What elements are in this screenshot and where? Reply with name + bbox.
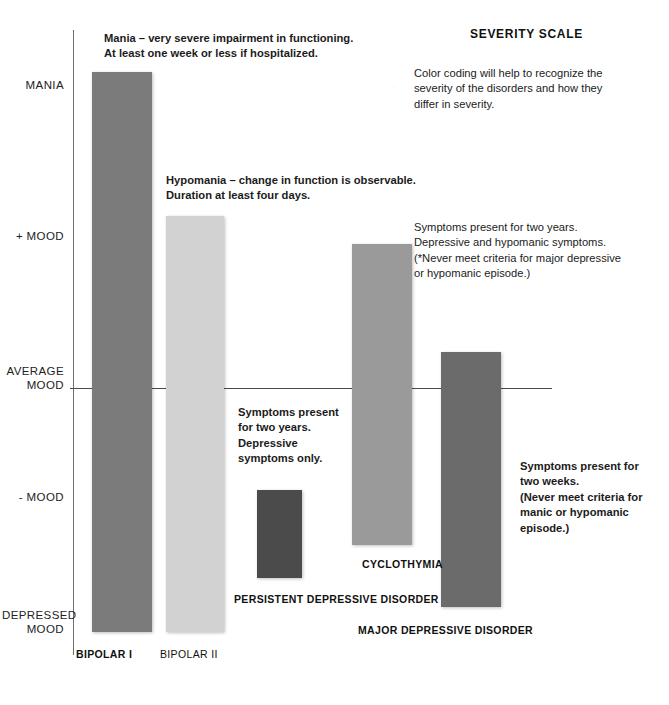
note-mania: Mania – very severe impairment in functi… xyxy=(104,31,464,62)
axis-label-mania: MANIA xyxy=(2,78,64,92)
axis-label-plus-mood: + MOOD xyxy=(2,229,64,243)
bar-label-persistent-depressive-disorder: PERSISTENT DEPRESSIVE DISORDER xyxy=(234,593,439,605)
bar-label-bipolar-i: BIPOLAR I xyxy=(76,648,132,660)
bar-major-depressive-disorder[interactable] xyxy=(441,352,501,607)
note-hypomania: Hypomania – change in function is observ… xyxy=(166,173,496,204)
bar-cyclothymia[interactable] xyxy=(352,244,412,545)
axis-label-minus-mood: - MOOD xyxy=(2,490,64,504)
bar-bipolar-i[interactable] xyxy=(92,72,152,632)
bar-bipolar-ii[interactable] xyxy=(166,216,224,632)
axis-label-average-mood: AVERAGE MOOD xyxy=(2,364,64,393)
bar-label-major-depressive-disorder: MAJOR DEPRESSIVE DISORDER xyxy=(358,624,533,636)
bar-persistent-depressive-disorder[interactable] xyxy=(257,490,302,578)
severity-scale-chart: · · · · MANIA + MOOD AVERAGE MOOD - MOOD… xyxy=(0,0,669,705)
bar-label-cyclothymia: CYCLOTHYMIA xyxy=(362,558,443,570)
note-persistent-depressive: Symptoms present for two years. Depressi… xyxy=(238,405,378,467)
axis-label-depressed-mood: DEPRESSED MOOD xyxy=(2,608,64,637)
page-title: SEVERITY SCALE xyxy=(470,27,583,41)
note-cyclothymia: Symptoms present for two years. Depressi… xyxy=(414,220,659,282)
vertical-axis xyxy=(73,30,74,655)
intro-note: Color coding will help to recognize the … xyxy=(414,66,649,112)
note-major-depressive: Symptoms present for two weeks. (Never m… xyxy=(520,459,669,536)
bar-label-bipolar-ii: BIPOLAR II xyxy=(160,648,218,660)
scan-artifact-2: · xyxy=(392,82,397,92)
